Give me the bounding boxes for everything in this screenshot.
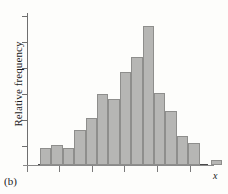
histogram-bar (86, 118, 97, 165)
y-axis-label: Relative frequency (12, 19, 24, 149)
histogram-bar (108, 99, 119, 165)
histogram-bar (143, 26, 154, 165)
x-axis-tick (92, 166, 93, 172)
histogram-bar (40, 148, 51, 165)
histogram-bar (211, 160, 222, 165)
y-axis-tick (22, 16, 27, 17)
panel-label: (b) (4, 175, 17, 187)
x-axis-tick (124, 166, 125, 172)
histogram-bar (177, 136, 188, 165)
histogram-bar (154, 93, 165, 165)
histogram-bar (74, 130, 85, 165)
histogram-bar (120, 72, 131, 165)
figure-panel: Relative frequency x (b) (0, 0, 228, 194)
histogram-bar (165, 111, 176, 165)
x-axis-line (23, 165, 214, 166)
x-axis-label: x (213, 170, 217, 181)
histogram-bar (188, 143, 199, 165)
y-axis-line (27, 13, 28, 166)
histogram-bar (51, 145, 62, 165)
histogram-plot: Relative frequency x (b) (0, 0, 228, 194)
x-axis-tick (59, 166, 60, 172)
x-axis-tick (190, 166, 191, 172)
x-axis-tick (27, 166, 28, 172)
x-axis-tick (157, 166, 158, 172)
histogram-bar (63, 148, 74, 165)
histogram-bar (131, 57, 142, 165)
histogram-bar (97, 94, 108, 165)
